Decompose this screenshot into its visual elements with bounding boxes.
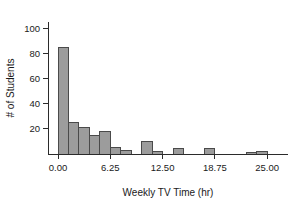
y-tick-label: 20 <box>29 123 40 134</box>
x-tick-label: 6.25 <box>101 162 120 173</box>
bars-group <box>58 47 267 154</box>
histogram-bar <box>79 128 89 154</box>
x-axis-title: Weekly TV Time (hr) <box>123 187 214 198</box>
histogram-bar <box>58 47 68 154</box>
x-axis-ticks: 0.006.2512.5018.7525.00 <box>49 154 279 173</box>
histogram-bar <box>121 150 131 154</box>
histogram-bar <box>110 148 120 154</box>
y-axis-title: # of Students <box>5 59 16 118</box>
x-tick-label: 25.00 <box>255 162 279 173</box>
x-tick-label: 0.00 <box>49 162 68 173</box>
y-tick-label: 40 <box>29 98 40 109</box>
histogram-bar <box>68 123 78 154</box>
y-tick-label: 60 <box>29 73 40 84</box>
y-tick-label: 80 <box>29 48 40 59</box>
histogram-bar <box>89 135 99 154</box>
histogram-bar <box>142 141 152 154</box>
histogram-bar <box>204 149 214 154</box>
y-tick-label: 100 <box>24 23 40 34</box>
histogram-bar <box>173 149 183 154</box>
x-tick-label: 12.50 <box>151 162 175 173</box>
histogram-figure: 20406080100 0.006.2512.5018.7525.00 Week… <box>0 0 295 204</box>
y-axis-ticks: 20406080100 <box>24 23 48 135</box>
x-tick-label: 18.75 <box>203 162 227 173</box>
histogram-plot: 20406080100 0.006.2512.5018.7525.00 Week… <box>0 0 295 204</box>
histogram-bar <box>100 131 110 154</box>
